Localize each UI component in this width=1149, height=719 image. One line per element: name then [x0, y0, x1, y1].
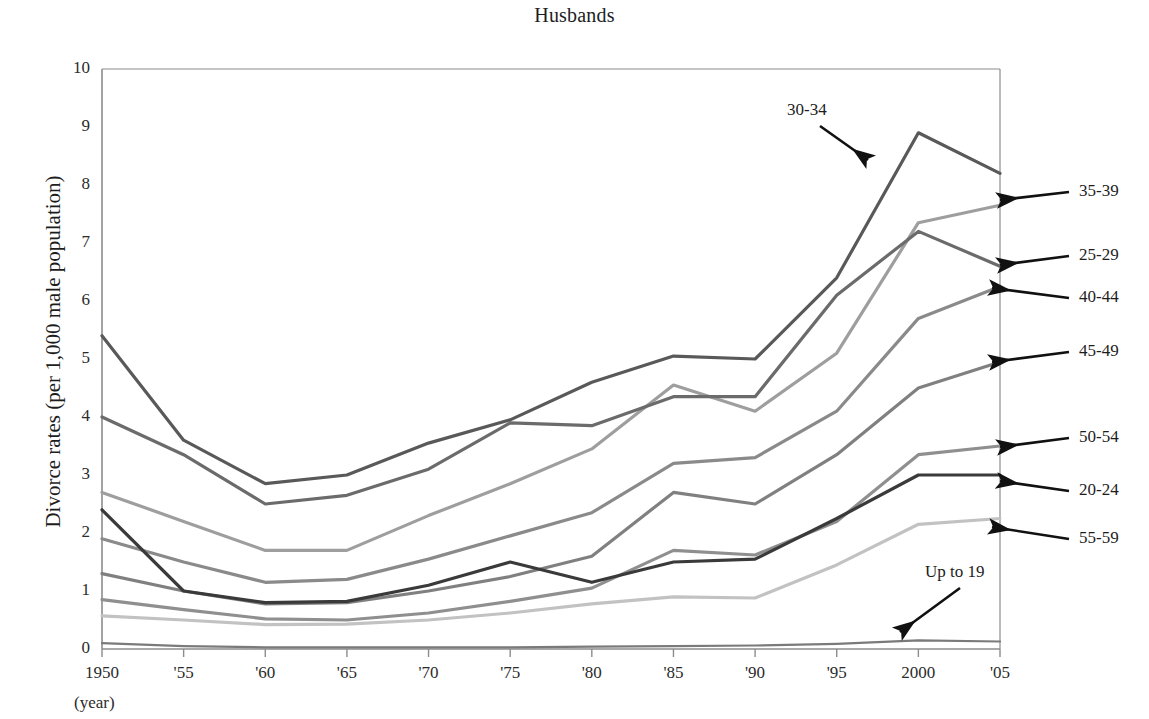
- legend-arrow-55-59: [992, 527, 1069, 539]
- chart-page: Husbands Divorce rates (per 1,000 male p…: [0, 0, 1149, 719]
- legend-label-50-54: 50-54: [1079, 427, 1119, 447]
- y-tick-6: 6: [50, 290, 90, 310]
- legend-label-45-49: 45-49: [1079, 341, 1119, 361]
- legend-label-25-29: 25-29: [1079, 245, 1119, 265]
- y-tick-1: 1: [50, 580, 90, 600]
- legend-label-55-59: 55-59: [1079, 528, 1119, 548]
- annotation-up-to-19: Up to 19: [925, 562, 985, 582]
- x-tick-90: '90: [715, 663, 795, 683]
- series-line-25-29: [102, 231, 1000, 504]
- series-line-50-54: [102, 446, 1000, 620]
- legend-arrow-50-54: [1000, 438, 1069, 447]
- x-tick-1950: 1950: [62, 663, 142, 683]
- x-tick-2000: 2000: [878, 663, 958, 683]
- y-tick-7: 7: [50, 232, 90, 252]
- x-tick-60: '60: [225, 663, 305, 683]
- series-line-up-to-19: [102, 640, 1000, 647]
- x-tick-70: '70: [389, 663, 469, 683]
- x-tick-85: '85: [633, 663, 713, 683]
- x-tick-95: '95: [797, 663, 877, 683]
- y-tick-3: 3: [50, 464, 90, 484]
- x-tick-55: '55: [144, 663, 224, 683]
- y-tick-0: 0: [50, 638, 90, 658]
- legend-arrow-40-44: [992, 288, 1069, 298]
- x-tick-75: '75: [470, 663, 550, 683]
- chart-series-lines: [102, 133, 1000, 648]
- legend-arrow-45-49: [992, 352, 1069, 362]
- legend-arrow-25-29: [1000, 256, 1069, 265]
- y-tick-5: 5: [50, 348, 90, 368]
- series-line-40-44: [102, 287, 1000, 583]
- legend-label-20-24: 20-24: [1079, 480, 1119, 500]
- y-tick-4: 4: [50, 406, 90, 426]
- annotation-30-34-arrow: [820, 126, 868, 160]
- x-tick-05: '05: [960, 663, 1040, 683]
- legend-arrow-20-24: [1000, 481, 1069, 491]
- annotation-30-34: 30-34: [787, 100, 827, 120]
- legend-arrow-35-39: [1000, 192, 1069, 200]
- x-tick-80: '80: [552, 663, 632, 683]
- legend-label-40-44: 40-44: [1079, 287, 1119, 307]
- line-chart-plot: [0, 0, 1149, 719]
- x-tick-65: '65: [307, 663, 387, 683]
- y-tick-10: 10: [50, 58, 90, 78]
- y-tick-9: 9: [50, 116, 90, 136]
- legend-label-35-39: 35-39: [1079, 181, 1119, 201]
- y-tick-8: 8: [50, 174, 90, 194]
- y-tick-2: 2: [50, 522, 90, 542]
- series-line-45-49: [102, 362, 1000, 604]
- annotation-up-to-19-arrow: [900, 588, 960, 632]
